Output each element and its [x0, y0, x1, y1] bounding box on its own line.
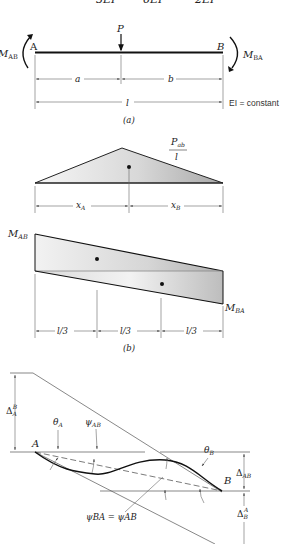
third-length-label: l/3: [120, 326, 131, 336]
load-label: P: [116, 23, 124, 34]
dim-xb-label: xB: [171, 200, 181, 211]
part-b-moment-triangle: Pab l xA xB: [35, 136, 223, 213]
node-b-label: B: [216, 41, 224, 52]
leader-line: [125, 477, 163, 512]
node-a-label: A: [31, 438, 39, 449]
angle-arc-icon: [165, 490, 166, 500]
delta-a-b-label: ΔAB: [6, 403, 18, 417]
centroid-dot: [95, 257, 99, 261]
centroid-dot: [160, 282, 164, 286]
caption-b: (b): [123, 343, 135, 353]
dim-xa-label: xA: [76, 200, 86, 211]
dim-l-label: l: [126, 98, 129, 108]
theta-b-label: θB: [204, 445, 214, 456]
psi-equality-label: ψBA = ψAB: [86, 512, 137, 522]
moment-ab-label: MAB: [7, 228, 28, 241]
node-b-label: B: [223, 475, 231, 486]
part-b-end-moment-diagram: MAB MBA l/3 l/3 l/3 (b): [7, 228, 245, 353]
equation-fragment: 3EI: [96, 0, 116, 6]
caption-a: (a): [123, 115, 135, 125]
tangent-at-b: [33, 373, 222, 492]
leader-arrow: [96, 429, 97, 449]
moment-ba-label: MBA: [242, 49, 263, 62]
leader-arrow: [202, 458, 208, 466]
equation-fragment-row: 3EI 6EI 2EI: [96, 0, 215, 6]
moment-ab-arrow-icon: [23, 37, 30, 68]
delta-b-a-label: ΔBA: [237, 506, 249, 520]
equation-fragment: 6EI: [143, 0, 163, 6]
peak-numerator: Pab: [170, 136, 185, 148]
angle-arc-icon: [92, 459, 94, 473]
dim-a-label: a: [75, 74, 80, 84]
stiffness-note: EI = constant: [229, 98, 279, 108]
moment-ba-label: MBA: [224, 302, 245, 315]
part-c-deflected-shape: ΔAB θA ψAB A B θB ψBA = ψAB ΔAB ΔBA: [6, 373, 256, 544]
equation-fragment: 2EI: [194, 0, 215, 6]
moment-ab-label: MAB: [0, 48, 18, 61]
centroid-dot: [127, 165, 131, 169]
peak-denominator: l: [175, 152, 178, 162]
psi-ab-label: ψAB: [85, 417, 101, 428]
tangent-at-a: [35, 452, 215, 544]
dim-b-label: b: [168, 74, 174, 84]
theta-a-label: θA: [53, 417, 63, 428]
moment-ba-arrow-icon: [230, 37, 238, 68]
part-a-beam-diagram: P A B MAB MBA a b l EI = constant (a): [0, 23, 279, 125]
third-length-label: l/3: [57, 326, 68, 336]
node-a-label: A: [29, 41, 38, 52]
slope-deflection-diagram: 3EI 6EI 2EI P A B MAB MBA a b: [0, 0, 284, 544]
third-length-label: l/3: [186, 326, 197, 336]
